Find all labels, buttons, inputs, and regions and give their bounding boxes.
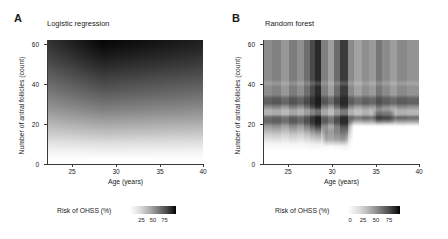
panel-a-xtick-40: 40 <box>199 168 206 175</box>
panel-b-xtick-25: 25 <box>284 168 291 175</box>
panel-a-cbar-tick-75: 75 <box>161 217 167 223</box>
panel-a-cbar-tick-50: 50 <box>150 217 156 223</box>
panel-a-plot-area <box>48 40 203 164</box>
panel-a-x-axis-label: Age (years) <box>48 178 203 185</box>
panel-a-cbar-tick-25: 25 <box>138 217 144 223</box>
panel-b-heatmap-dark-stripe-high-age <box>264 40 419 164</box>
panel-a-letter: A <box>14 12 22 24</box>
panel-a-colorbar-label: Risk of OHSS (%) <box>57 207 111 214</box>
panel-b-cbar-tick-50: 50 <box>373 217 379 223</box>
panel-b-cbar-tick-0: 0 <box>348 217 351 223</box>
panel-b-cbar-tick-75: 75 <box>386 217 392 223</box>
panel-a-colorbar-ticks: 25 50 75 <box>130 215 176 227</box>
panel-b-cbar-tick-25: 25 <box>360 217 366 223</box>
panel-b-plot-area <box>264 40 419 164</box>
panel-b-xtick-40: 40 <box>415 168 422 175</box>
panel-b-y-axis <box>263 40 264 165</box>
panel-a-y-axis <box>47 40 48 165</box>
panel-a-title: Logistic regression <box>47 19 110 28</box>
panel-b-ytick-0: 0 <box>251 161 255 168</box>
panel-b-ytick-20: 20 <box>248 121 255 128</box>
panel-b-xtick-35: 35 <box>372 168 379 175</box>
panel-a-x-ticks: 25 30 35 40 <box>48 164 203 170</box>
panel-b-colorbar-group: Risk of OHSS (%) 0 25 50 75 <box>224 203 448 233</box>
panel-a-ytick-20: 20 <box>32 121 39 128</box>
panel-b-colorbar-ticks: 0 25 50 75 <box>348 215 400 227</box>
panel-b-colorbar-gradient <box>348 206 400 214</box>
panel-b-y-axis-label: Number of antral follicles (count) <box>234 41 241 171</box>
panel-a-ytick-60: 60 <box>32 41 39 48</box>
panel-a-xtick-25: 25 <box>68 168 75 175</box>
panel-b-ytick-40: 40 <box>248 81 255 88</box>
panel-a-heatmap <box>48 40 203 164</box>
panel-a-colorbar-group: Risk of OHSS (%) 25 50 75 <box>0 203 224 233</box>
panel-a-colorbar-gradient <box>130 206 176 214</box>
panel-b: B Random forest 0 20 40 60 <box>224 0 448 239</box>
panel-a-ytick-0: 0 <box>35 161 39 168</box>
panel-b-y-ticks: 0 20 40 60 <box>257 40 263 165</box>
panel-b-x-axis-label: Age (years) <box>264 178 419 185</box>
panel-b-ytick-60: 60 <box>248 41 255 48</box>
panel-b-colorbar-label: Risk of OHSS (%) <box>275 207 329 214</box>
panel-a: A Logistic regression 0 20 40 60 25 30 3… <box>0 0 224 239</box>
panel-a-xtick-35: 35 <box>156 168 163 175</box>
figure-root: A Logistic regression 0 20 40 60 25 30 3… <box>0 0 448 239</box>
panel-b-x-ticks: 25 30 35 40 <box>264 164 419 170</box>
panel-a-y-ticks: 0 20 40 60 <box>41 40 47 165</box>
panel-b-letter: B <box>232 12 240 24</box>
panel-a-xtick-30: 30 <box>112 168 119 175</box>
panel-b-title: Random forest <box>265 19 314 28</box>
panel-a-y-axis-label: Number of antral follicles (count) <box>18 41 25 171</box>
panel-b-xtick-30: 30 <box>328 168 335 175</box>
panel-a-ytick-40: 40 <box>32 81 39 88</box>
